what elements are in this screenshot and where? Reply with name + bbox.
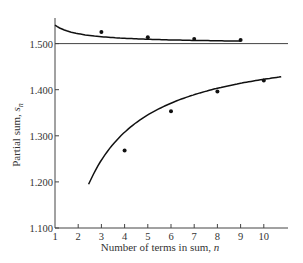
y-tick-label: 1.200 [29, 177, 53, 188]
data-point [262, 78, 266, 82]
x-tick-label: 1 [52, 231, 57, 242]
lower-curve [89, 77, 282, 185]
y-tick-label: 1.400 [29, 85, 53, 96]
y-tick-label: 1.500 [29, 39, 53, 50]
x-tick-label: 9 [238, 231, 243, 242]
data-point [146, 35, 150, 39]
y-tick-label: 1.100 [29, 223, 53, 234]
data-point [215, 90, 219, 94]
x-tick-label: 10 [259, 231, 270, 242]
data-point [239, 38, 243, 42]
data-point [99, 30, 103, 34]
data-point [123, 149, 127, 153]
partial-sum-chart: 123456789101.1001.2001.3001.4001.500 Num… [0, 0, 303, 263]
data-point [192, 37, 196, 41]
plot-area: 123456789101.1001.2001.3001.4001.500 [29, 18, 288, 242]
y-tick-label: 1.300 [29, 131, 53, 142]
y-axis-title: Partial sum, sn [10, 103, 25, 167]
x-tick-label: 2 [76, 231, 81, 242]
x-axis-title: Number of terms in sum, n [101, 241, 220, 253]
data-point [169, 109, 173, 113]
